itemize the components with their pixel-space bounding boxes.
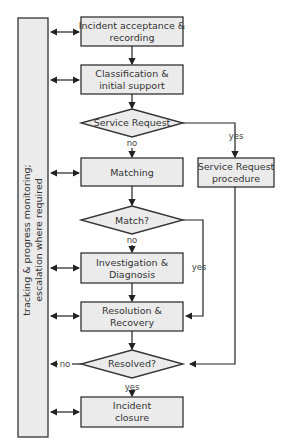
decision-service-request: Service Request bbox=[81, 109, 183, 137]
node-label: initial support bbox=[99, 80, 165, 91]
node-label: recording bbox=[109, 32, 154, 43]
node-label: Classification & bbox=[95, 68, 169, 79]
sidebar-text-line1: tracking & progress monitoring; bbox=[21, 164, 32, 315]
decision-label: Resolved? bbox=[108, 358, 156, 369]
node-label: Matching bbox=[110, 167, 154, 178]
edge-label-yes: yes bbox=[229, 131, 244, 141]
sidebar-text-line2: escalation where required bbox=[33, 178, 44, 302]
edge-label-no: no bbox=[127, 138, 138, 148]
node-label: Incident bbox=[113, 400, 152, 411]
node-label: Incident acceptance & bbox=[79, 20, 186, 31]
tracking-monitoring-bar: tracking & progress monitoring; escalati… bbox=[18, 18, 48, 437]
decision-resolved: Resolved? bbox=[81, 350, 183, 378]
node-label: Investigation & bbox=[96, 257, 169, 268]
bidirectional-arrows bbox=[51, 32, 79, 412]
edge-label-yes: yes bbox=[125, 382, 140, 392]
node-label: Diagnosis bbox=[109, 269, 155, 280]
node-incident-acceptance: Incident acceptance & recording bbox=[79, 17, 186, 46]
node-classification: Classification & initial support bbox=[81, 65, 183, 94]
edge-label-no: no bbox=[60, 359, 71, 369]
edge-label-yes: yes bbox=[192, 262, 207, 272]
decision-match: Match? bbox=[81, 206, 183, 234]
decision-label: Match? bbox=[115, 215, 149, 226]
node-label: Recovery bbox=[110, 317, 154, 328]
edge-label-no: no bbox=[127, 235, 138, 245]
node-label: Service Request bbox=[198, 161, 275, 172]
node-resolution-recovery: Resolution & Recovery bbox=[81, 302, 183, 331]
node-label: Resolution & bbox=[102, 305, 163, 316]
node-label: procedure bbox=[212, 173, 260, 184]
node-label: closure bbox=[115, 412, 149, 423]
node-incident-closure: Incident closure bbox=[81, 397, 183, 427]
node-investigation-diagnosis: Investigation & Diagnosis bbox=[81, 253, 183, 283]
node-service-request-procedure: Service Request procedure bbox=[198, 158, 275, 187]
node-matching: Matching bbox=[81, 158, 183, 186]
incident-management-flowchart: tracking & progress monitoring; escalati… bbox=[0, 0, 287, 443]
decision-label: Service Request bbox=[94, 117, 171, 128]
